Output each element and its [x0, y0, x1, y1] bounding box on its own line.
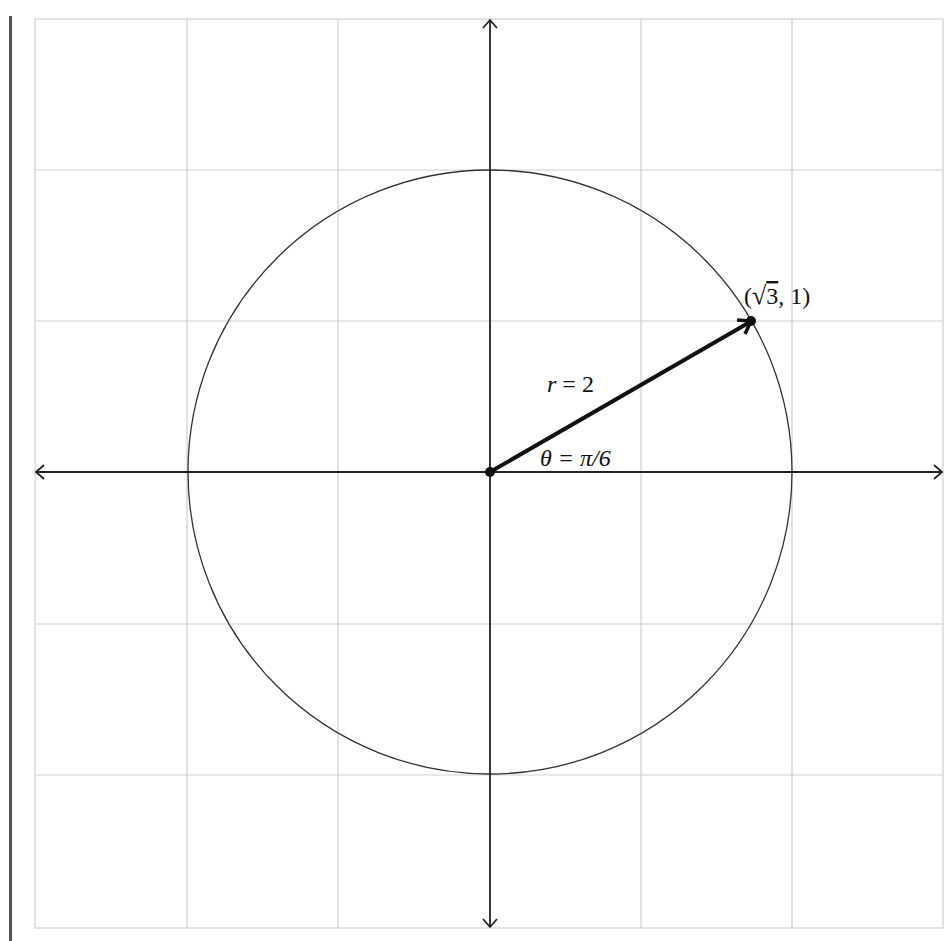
angle-label: θ = π/6 [540, 445, 611, 471]
radius-label: r = 2 [547, 371, 594, 397]
polar-diagram: (√3, 1) r = 2 θ = π/6 [0, 0, 951, 941]
terminal-point [746, 316, 756, 326]
origin-point [485, 467, 495, 477]
radius-vector [490, 320, 751, 472]
point-label: (√3, 1) [744, 281, 810, 310]
